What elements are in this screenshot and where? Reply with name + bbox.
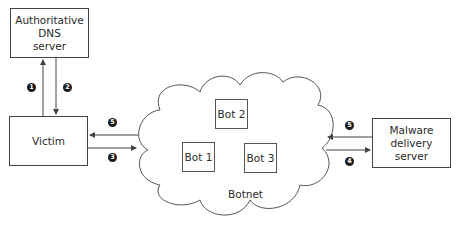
- step-4-badge: 4: [345, 157, 354, 166]
- bot-3-label: Bot 3: [247, 152, 275, 164]
- bot-1-node: Bot 1: [182, 142, 215, 172]
- malware-server-node: Malware delivery server: [372, 118, 451, 168]
- step-1-badge: 1: [27, 83, 36, 92]
- step-2-badge: 2: [63, 83, 72, 92]
- victim-node: Victim: [9, 116, 88, 166]
- dns-label-line2: DNS: [15, 27, 84, 40]
- botnet-label: Botnet: [228, 188, 263, 200]
- malware-label-line3: server: [390, 150, 434, 163]
- step-3-badge: 3: [108, 153, 117, 162]
- step-5-badge-left: 5: [108, 118, 117, 127]
- malware-label-line2: delivery: [390, 137, 434, 150]
- bot-2-node: Bot 2: [215, 99, 248, 129]
- step-5-badge-right: 5: [345, 121, 354, 130]
- dns-server-node: Authoritative DNS server: [10, 8, 89, 58]
- bot-1-label: Bot 1: [185, 151, 213, 163]
- victim-label: Victim: [32, 135, 65, 148]
- dns-label-line3: server: [15, 40, 84, 53]
- bot-3-node: Bot 3: [244, 143, 277, 173]
- malware-label-line1: Malware: [390, 124, 434, 137]
- dns-label-line1: Authoritative: [15, 14, 84, 27]
- bot-2-label: Bot 2: [218, 108, 246, 120]
